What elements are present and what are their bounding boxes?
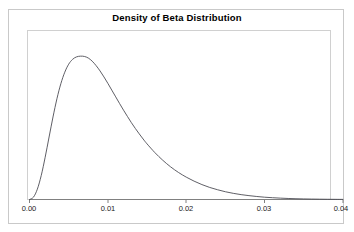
x-tick-label-1: 0.01 [101,204,116,213]
figure-canvas: Density of Beta Distribution 0.00 0.01 0… [0,0,354,232]
page-title: Density of Beta Distribution [0,12,354,23]
plot-area-frame [27,30,331,200]
x-tick-label-2: 0.02 [179,204,194,213]
x-tick-label-4: 0.04 [334,204,349,213]
x-tick-label-3: 0.03 [257,204,272,213]
x-tick-label-0: 0.00 [22,204,37,213]
